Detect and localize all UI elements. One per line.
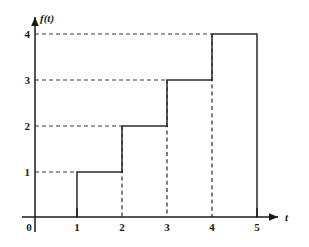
x-tick-label-4: 4	[209, 222, 215, 233]
x-tick-label-3: 3	[164, 222, 170, 233]
step-chart-canvas	[0, 0, 309, 247]
step-function-figure: 4 3 2 1 0 1 2 3 4 5 f(t) t	[0, 0, 309, 247]
y-tick-label-4: 4	[25, 29, 31, 40]
y-axis-arrowhead	[31, 17, 39, 26]
x-axis-label: t	[285, 212, 288, 223]
y-tick-label-1: 1	[25, 167, 31, 178]
step-segment-2	[122, 126, 167, 172]
x-tick-label-2: 2	[119, 222, 125, 233]
x-tick-label-0: 0	[26, 222, 32, 233]
y-tick-label-3: 3	[25, 75, 31, 86]
step-segment-4	[212, 34, 257, 217]
axes-group	[22, 17, 278, 232]
y-axis-label: f(t)	[40, 13, 54, 24]
horizontal-guide-lines	[35, 34, 212, 172]
y-tick-label-2: 2	[25, 121, 31, 132]
step-segment-3	[167, 80, 212, 126]
step-segment-1	[77, 172, 122, 217]
x-axis-arrowhead	[269, 213, 278, 221]
x-tick-label-5: 5	[254, 222, 260, 233]
x-tick-label-1: 1	[74, 222, 80, 233]
